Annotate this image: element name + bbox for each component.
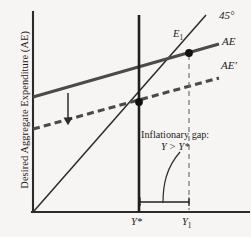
aggregate-expenditure-diagram: Desired Aggregate Expenditure (AE) 45° A… <box>0 0 251 237</box>
equilibrium-point-subscript: 1 <box>179 33 183 42</box>
gap-callout-curve <box>163 152 180 203</box>
ae-prime-curve-label: AE′ <box>221 59 237 71</box>
equilibrium-point-e1 <box>185 49 193 57</box>
inflationary-gap-annotation: Inflationary gap: Y > Y* <box>141 129 209 153</box>
x-tick-label-actual-output-subscript: 1 <box>188 221 192 230</box>
x-tick-label-potential-output: Y* <box>131 216 142 228</box>
equilibrium-point-potential <box>135 98 143 106</box>
x-tick-label-actual-output: Y1 <box>182 216 192 230</box>
forty-five-degree-line <box>34 15 206 211</box>
inflationary-gap-condition: Y > Y* <box>141 141 209 152</box>
inflationary-gap-title: Inflationary gap: <box>141 129 209 140</box>
plot-canvas <box>0 0 251 237</box>
forty-five-degree-label: 45° <box>219 9 234 21</box>
ae-prime-curve <box>33 78 219 129</box>
y-axis-title: Desired Aggregate Expenditure (AE) <box>19 7 31 213</box>
equilibrium-point-label: E1 <box>173 28 183 42</box>
ae-curve-label: AE <box>222 35 235 47</box>
